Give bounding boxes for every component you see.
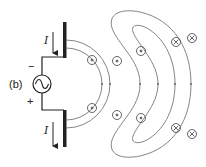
out-of-page-icon <box>88 56 97 65</box>
outer-field-loop-1 <box>111 11 191 157</box>
out-of-page-icon <box>137 47 146 56</box>
dipole-antenna-field-diagram: (b) − + I I <box>0 0 206 167</box>
field-out-of-page-icons <box>88 47 146 123</box>
into-page-icon <box>172 124 181 133</box>
polarity-plus: + <box>27 95 33 107</box>
current-label-top: I <box>43 34 49 47</box>
polarity-minus: − <box>28 60 34 72</box>
into-page-icon <box>188 130 197 139</box>
outer-field-loop-2 <box>132 25 175 142</box>
out-of-page-icon <box>113 57 122 66</box>
upper-feed-wire <box>42 57 64 75</box>
current-label-bottom: I <box>43 124 49 137</box>
inner-field-lines <box>66 40 110 128</box>
panel-label: (b) <box>9 78 22 90</box>
out-of-page-icon <box>113 111 122 120</box>
lower-antenna-rod <box>63 110 67 147</box>
out-of-page-icon <box>88 104 97 113</box>
into-page-icon <box>172 38 181 47</box>
into-page-icon <box>188 34 197 43</box>
upper-antenna-rod <box>63 22 67 58</box>
lower-feed-wire <box>42 93 64 110</box>
ac-source-icon <box>33 75 51 93</box>
